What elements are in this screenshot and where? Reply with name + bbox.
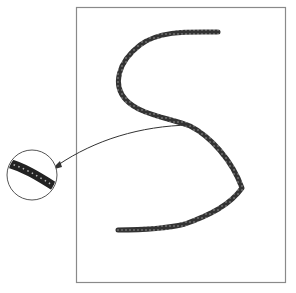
magnifier-inset	[4, 150, 60, 200]
callout-arrow	[58, 125, 190, 165]
diagram-canvas	[0, 0, 296, 293]
bounding-frame	[77, 8, 286, 283]
